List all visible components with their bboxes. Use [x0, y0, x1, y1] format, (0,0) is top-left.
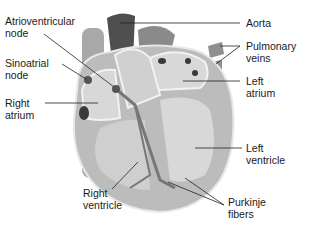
label-atrioventricular-node: Atrioventricular node	[5, 15, 75, 39]
vessel-opening	[158, 58, 166, 64]
pulmonary-vein-upper	[208, 42, 224, 58]
label-left-ventricle: Left ventricle	[246, 142, 285, 166]
label-purkinje-fibers: Purkinje fibers	[228, 196, 266, 220]
vessel-opening	[79, 106, 89, 120]
label-pulmonary-veins: Pulmonary veins	[246, 40, 296, 64]
vessel-opening	[185, 58, 191, 64]
sinoatrial-node-shape	[84, 76, 92, 84]
label-left-atrium: Left atrium	[246, 75, 275, 99]
label-right-atrium: Right atrium	[5, 97, 34, 121]
label-aorta: Aorta	[246, 17, 271, 29]
vessel-opening	[192, 70, 198, 76]
label-right-ventricle: Right ventricle	[83, 187, 122, 211]
heart-diagram: Atrioventricular node Sinoatrial node Ri…	[0, 0, 313, 230]
label-sinoatrial-node: Sinoatrial node	[5, 57, 49, 81]
left-atrium-chamber	[150, 52, 208, 90]
